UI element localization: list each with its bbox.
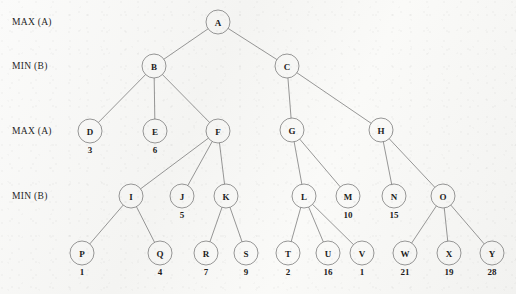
leaf-value-s: 9	[244, 267, 249, 277]
leaf-value-n: 15	[390, 210, 400, 220]
leaf-value-d: 3	[88, 145, 93, 155]
tree-node-t[interactable]: T	[276, 241, 300, 265]
tree-node-b[interactable]: B	[142, 54, 166, 78]
level-label-3: MIN (B)	[12, 191, 48, 201]
leaf-value-j: 5	[180, 210, 185, 220]
tree-node-c[interactable]: C	[275, 54, 299, 78]
tree-edge-b-e	[154, 78, 155, 119]
tree-node-g[interactable]: G	[280, 118, 304, 142]
tree-node-l[interactable]: L	[292, 184, 316, 208]
tree-edge-c-g	[288, 78, 291, 118]
nodes-group: ABCDEFGHIJKLMNOPQRSTUVWXY	[70, 10, 504, 265]
node-label-o: O	[439, 192, 446, 202]
level-label-0: MAX (A)	[12, 17, 52, 27]
tree-node-a[interactable]: A	[206, 10, 230, 34]
tree-node-y[interactable]: Y	[480, 241, 504, 265]
diagram-canvas: ABCDEFGHIJKLMNOPQRSTUVWXY 36510151479216…	[0, 0, 516, 294]
tree-edge-o-x	[444, 208, 447, 241]
tree-edge-g-l	[294, 142, 302, 184]
tree-edge-k-s	[230, 207, 242, 241]
node-label-e: E	[152, 127, 158, 137]
tree-node-u[interactable]: U	[316, 241, 340, 265]
tree-edge-b-d	[98, 75, 145, 123]
node-label-c: C	[284, 62, 291, 72]
tree-node-i[interactable]: I	[119, 184, 143, 208]
tree-node-p[interactable]: P	[70, 241, 94, 265]
tree-edge-i-q	[136, 207, 154, 243]
node-label-u: U	[325, 249, 332, 259]
tree-node-h[interactable]: H	[369, 118, 393, 142]
node-label-i: I	[129, 192, 133, 202]
leaf-value-v: 1	[360, 267, 365, 277]
tree-node-n[interactable]: N	[382, 184, 406, 208]
leaf-value-u: 16	[324, 267, 334, 277]
game-tree-svg: ABCDEFGHIJKLMNOPQRSTUVWXY 36510151479216…	[0, 0, 516, 294]
node-label-s: S	[243, 249, 248, 259]
tree-node-m[interactable]: M	[336, 184, 360, 208]
leaf-value-y: 28	[488, 267, 498, 277]
tree-edge-l-t	[291, 208, 301, 242]
leaf-value-r: 7	[204, 267, 209, 277]
tree-node-w[interactable]: W	[393, 241, 417, 265]
node-label-q: Q	[156, 249, 163, 259]
node-label-g: G	[288, 126, 295, 136]
tree-edge-a-c	[228, 28, 277, 59]
tree-edge-i-p	[90, 205, 123, 244]
tree-node-q[interactable]: Q	[148, 241, 172, 265]
leaf-value-q: 4	[158, 267, 163, 277]
tree-edge-l-u	[309, 207, 324, 242]
node-label-n: N	[391, 192, 398, 202]
tree-node-e[interactable]: E	[143, 119, 167, 143]
tree-edge-b-f	[162, 75, 209, 123]
node-label-p: P	[79, 249, 85, 259]
tree-edge-c-h	[297, 73, 371, 124]
node-label-b: B	[151, 62, 157, 72]
node-label-x: X	[446, 249, 453, 259]
tree-node-r[interactable]: R	[194, 241, 218, 265]
node-label-h: H	[377, 126, 384, 136]
tree-node-x[interactable]: X	[437, 241, 461, 265]
node-label-a: A	[215, 18, 222, 28]
node-label-m: M	[344, 192, 353, 202]
tree-edge-f-i	[141, 138, 209, 189]
tree-node-d[interactable]: D	[78, 119, 102, 143]
node-label-v: V	[359, 249, 366, 259]
leaf-value-x: 19	[445, 267, 455, 277]
tree-edge-h-n	[383, 142, 391, 184]
leaf-value-p: 1	[80, 267, 85, 277]
node-label-k: K	[222, 192, 229, 202]
node-label-j: J	[180, 192, 185, 202]
tree-edge-g-m	[300, 139, 340, 187]
tree-edge-o-w	[412, 206, 437, 243]
tree-edge-o-y	[451, 205, 484, 244]
node-label-f: F	[215, 127, 221, 137]
node-label-t: T	[285, 249, 291, 259]
node-label-d: D	[87, 127, 94, 137]
tree-edge-a-b	[164, 29, 208, 59]
node-label-y: Y	[489, 249, 496, 259]
tree-edge-h-o	[389, 139, 435, 188]
tree-edge-f-j	[188, 142, 212, 186]
tree-edge-k-r	[210, 207, 222, 241]
tree-node-v[interactable]: V	[350, 241, 374, 265]
tree-node-j[interactable]: J	[170, 184, 194, 208]
leaf-value-m: 10	[344, 210, 354, 220]
leaf-value-w: 21	[401, 267, 411, 277]
tree-node-f[interactable]: F	[206, 119, 230, 143]
node-label-r: R	[203, 249, 210, 259]
leaf-value-e: 6	[153, 145, 158, 155]
tree-node-s[interactable]: S	[234, 241, 258, 265]
level-label-2: MAX (A)	[12, 126, 52, 136]
tree-node-k[interactable]: K	[214, 184, 238, 208]
level-label-1: MIN (B)	[12, 61, 48, 71]
leaf-value-t: 2	[286, 267, 291, 277]
tree-edge-f-k	[219, 143, 224, 184]
tree-node-o[interactable]: O	[431, 184, 455, 208]
node-label-l: L	[301, 192, 307, 202]
node-label-w: W	[401, 249, 410, 259]
